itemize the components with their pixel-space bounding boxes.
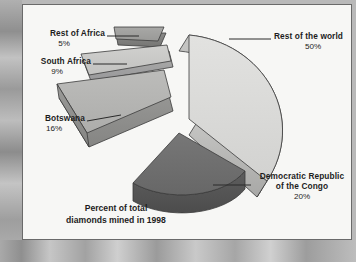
label-south-africa-pct: 9% [23, 67, 91, 77]
label-rest-of-world: Rest of the world 50% [274, 32, 351, 51]
slice-botswana [57, 70, 173, 147]
label-botswana: Botswana 16% [23, 114, 85, 133]
label-botswana-name: Botswana [23, 114, 85, 124]
label-botswana-pct: 16% [23, 124, 85, 134]
label-south-africa-name: South Africa [23, 57, 91, 67]
screenshot-root: Rest of Africa 5% South Africa 9% Botswa… [0, 0, 356, 262]
label-south-africa: South Africa 9% [23, 57, 91, 76]
chart-title-line2: diamonds mined in 1998 [41, 215, 191, 227]
chart-title: Percent of total diamonds mined in 1998 [41, 203, 191, 226]
label-rest-of-world-pct: 50% [274, 42, 351, 52]
label-rest-of-world-name: Rest of the world [274, 32, 351, 42]
chart-figure: Rest of Africa 5% South Africa 9% Botswa… [22, 4, 352, 240]
label-rest-of-africa: Rest of Africa 5% [23, 29, 105, 48]
label-rest-of-africa-pct: 5% [23, 39, 105, 49]
scanned-page-edge-bottom [0, 240, 356, 262]
label-drc: Democratic Republic of the Congo 20% [254, 172, 350, 201]
label-rest-of-africa-name: Rest of Africa [23, 29, 105, 39]
label-drc-name-line2: of the Congo [254, 182, 350, 192]
label-drc-pct: 20% [254, 192, 350, 202]
scanned-page-edge-left [0, 0, 22, 262]
chart-title-line1: Percent of total [41, 203, 191, 215]
chart-figure-inner: Rest of Africa 5% South Africa 9% Botswa… [23, 5, 351, 239]
slice-rest-of-africa [114, 27, 166, 47]
